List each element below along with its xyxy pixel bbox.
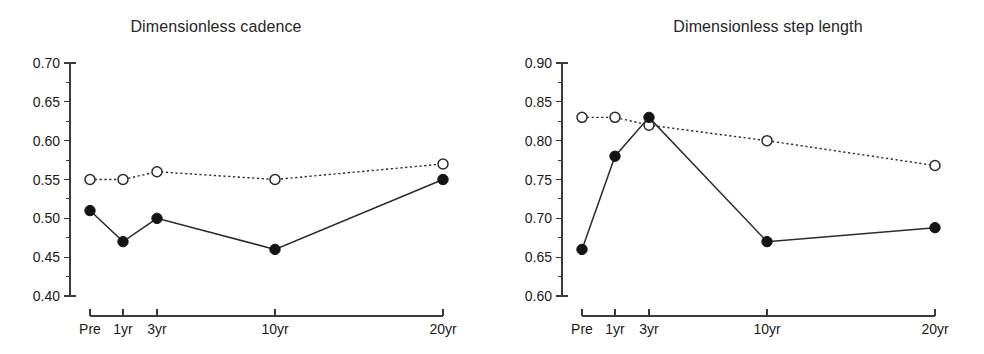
data-point-marker-filled-circle-solid <box>152 213 162 223</box>
data-point-marker-filled-circle-solid <box>930 222 940 232</box>
x-axis-tick-label: 3yr <box>639 321 659 337</box>
data-point-marker-open-circle-dotted <box>762 136 772 146</box>
y-axis-tick-label: 0.45 <box>33 249 60 265</box>
y-axis-tick-label: 0.65 <box>525 249 552 265</box>
data-point-marker-open-circle-dotted <box>85 175 95 185</box>
data-point-marker-open-circle-dotted <box>930 161 940 171</box>
series-line-filled-circle-solid <box>90 180 443 250</box>
panel-dimensionless-step-length: Dimensionless step length 0.600.650.700.… <box>492 0 984 354</box>
chart-canvas-step-length: 0.600.650.700.750.800.850.90Pre1yr3yr10y… <box>492 0 984 354</box>
data-point-marker-filled-circle-solid <box>118 236 128 246</box>
x-axis-tick-label: 1yr <box>113 321 133 337</box>
x-axis-tick-label: 20yr <box>429 321 457 337</box>
data-point-marker-open-circle-dotted <box>152 167 162 177</box>
y-axis-tick-label: 0.65 <box>33 94 60 110</box>
y-axis-tick-label: 0.80 <box>525 133 552 149</box>
series-line-open-circle-dotted <box>90 164 443 180</box>
y-axis-tick-label: 0.50 <box>33 210 60 226</box>
data-point-marker-open-circle-dotted <box>610 112 620 122</box>
x-axis-tick-label: 10yr <box>753 321 781 337</box>
figure-two-panel-line-charts: Dimensionless cadence 0.400.450.500.550.… <box>0 0 984 354</box>
data-point-marker-filled-circle-solid <box>577 244 587 254</box>
plot-group: 0.400.450.500.550.600.650.70Pre1yr3yr10y… <box>33 55 457 337</box>
x-axis-tick-label: 10yr <box>261 321 289 337</box>
y-axis-tick-label: 0.60 <box>33 133 60 149</box>
y-axis-tick-label: 0.70 <box>525 210 552 226</box>
data-point-marker-filled-circle-solid <box>644 112 654 122</box>
y-axis-line <box>70 63 76 296</box>
x-axis-tick-label: 3yr <box>147 321 167 337</box>
series-line-filled-circle-solid <box>582 117 935 249</box>
series-line-open-circle-dotted <box>582 117 935 165</box>
x-axis-tick-label: Pre <box>79 321 101 337</box>
y-axis-line <box>562 63 568 296</box>
x-axis-tick-label: Pre <box>571 321 593 337</box>
y-axis-tick-label: 0.70 <box>33 55 60 71</box>
data-point-marker-filled-circle-solid <box>762 236 772 246</box>
data-point-marker-filled-circle-solid <box>270 244 280 254</box>
data-point-marker-filled-circle-solid <box>610 151 620 161</box>
data-point-marker-filled-circle-solid <box>438 174 448 184</box>
y-axis-tick-label: 0.90 <box>525 55 552 71</box>
y-axis-tick-label: 0.40 <box>33 288 60 304</box>
data-point-marker-open-circle-dotted <box>577 112 587 122</box>
data-point-marker-filled-circle-solid <box>85 205 95 215</box>
x-axis-tick-label: 1yr <box>605 321 625 337</box>
data-point-marker-open-circle-dotted <box>438 159 448 169</box>
y-axis-tick-label: 0.60 <box>525 288 552 304</box>
y-axis-tick-label: 0.85 <box>525 94 552 110</box>
y-axis-tick-label: 0.75 <box>525 172 552 188</box>
y-axis-tick-label: 0.55 <box>33 172 60 188</box>
panel-dimensionless-cadence: Dimensionless cadence 0.400.450.500.550.… <box>0 0 492 354</box>
x-axis-tick-label: 20yr <box>921 321 949 337</box>
data-point-marker-open-circle-dotted <box>118 175 128 185</box>
plot-group: 0.600.650.700.750.800.850.90Pre1yr3yr10y… <box>525 55 949 337</box>
data-point-marker-open-circle-dotted <box>270 175 280 185</box>
chart-canvas-cadence: 0.400.450.500.550.600.650.70Pre1yr3yr10y… <box>0 0 492 354</box>
